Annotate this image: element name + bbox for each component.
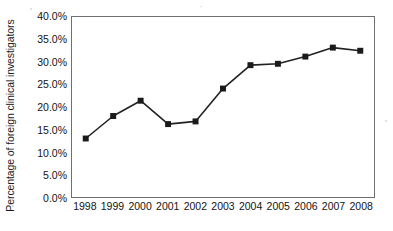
data-point-marker [138,98,144,104]
y-axis-tick-label: 10.0% [20,147,67,159]
data-point-marker [165,121,171,127]
x-axis-tick-label: 1998 [73,200,96,212]
data-point-marker [275,61,281,67]
y-axis-tick-label: 35.0% [20,33,67,45]
x-axis-tick-label: 2003 [211,200,234,212]
scan-speckle [385,120,387,122]
data-point-marker [220,86,226,92]
y-axis-tick-label: 20.0% [20,101,67,113]
y-axis-title: Percentage of foreign clinical investiga… [0,0,20,231]
plot-area [71,16,375,198]
x-axis-tick-label: 2007 [322,200,345,212]
x-axis-tick-label: 2002 [184,200,207,212]
line-series-path [86,48,361,139]
x-axis-tick-label: 1999 [101,200,124,212]
data-point-marker [302,54,308,60]
x-axis-tick-label: 2004 [239,200,262,212]
data-point-markers [83,45,364,142]
scan-speckle [200,6,202,7]
x-axis-tick-label: 2006 [294,200,317,212]
y-axis-tick-label: 25.0% [20,78,67,90]
data-point-marker [357,48,363,54]
y-axis-tick-label: 0.0% [20,192,67,204]
data-point-marker [110,113,116,119]
data-point-marker [193,118,199,124]
x-axis-tick-label: 2000 [128,200,151,212]
x-axis-tick-labels: 1998199920002001200220032004200520062007… [71,200,375,218]
chart-figure: Percentage of foreign clinical investiga… [0,0,393,231]
data-point-marker [83,136,89,142]
x-axis-tick-label: 2008 [349,200,372,212]
x-axis-tick-label: 2001 [156,200,179,212]
y-axis-tick-labels: 0.0%5.0%10.0%15.0%20.0%25.0%30.0%35.0%40… [20,16,67,198]
y-axis-tick-label: 5.0% [20,169,67,181]
x-axis-tick-label: 2005 [267,200,290,212]
data-series-svg [72,17,374,197]
y-axis-tick-label: 40.0% [20,10,67,22]
data-point-marker [247,62,253,68]
y-axis-tick-label: 30.0% [20,56,67,68]
y-axis-tick-label: 15.0% [20,124,67,136]
data-point-marker [330,45,336,51]
